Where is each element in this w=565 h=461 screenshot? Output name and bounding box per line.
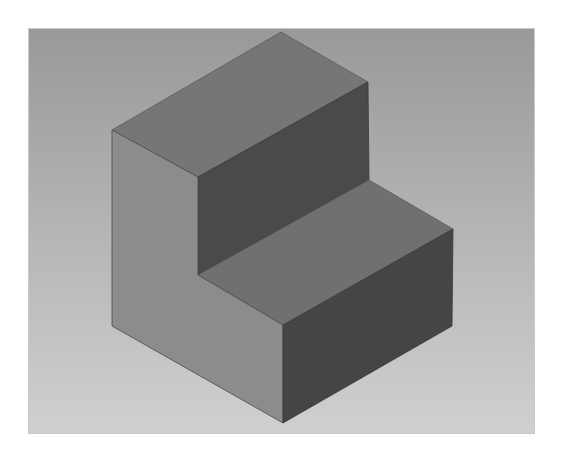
step-block-model[interactable]	[0, 0, 565, 461]
